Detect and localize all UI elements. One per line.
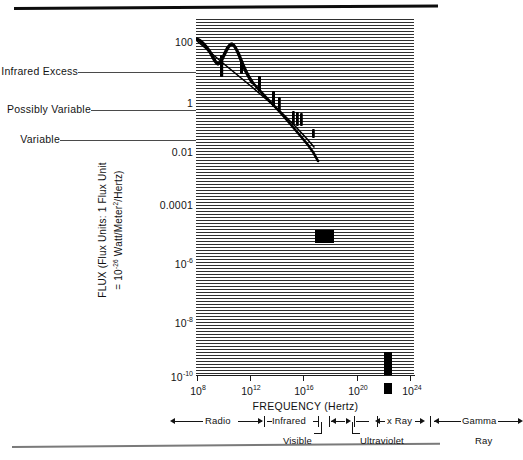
band-arrow-uv-left	[331, 418, 336, 424]
band-leader-ultraviolet-foot	[352, 433, 360, 434]
plot-hatch-background	[196, 19, 414, 375]
x-axis-tick-3	[357, 375, 358, 381]
band-rule-radio	[175, 421, 203, 422]
band-rule-gamma-right	[498, 421, 520, 422]
ytick-label-100: 100	[175, 36, 193, 48]
band-label-radio: Radio	[205, 415, 231, 426]
ytick-label-1e-10: 10-10	[171, 370, 193, 383]
x-axis-tick-2	[303, 375, 304, 381]
ytick-label-1e-6: 10-6	[175, 257, 193, 270]
band-label-infrared: Infrared	[272, 415, 306, 426]
x-axis-tick-0	[197, 375, 198, 381]
spectrum-band-ruler: Radio Infrared x Ray Gamma Visible Ultra…	[168, 412, 430, 452]
band-rule-xray-left	[380, 421, 385, 422]
x-axis-line	[196, 375, 415, 376]
band-arrow-uv-right	[346, 418, 351, 424]
band-arrow-xray-right	[420, 418, 425, 424]
guide-line-possibly-variable	[91, 110, 196, 111]
band-stop-uv-left	[354, 416, 355, 427]
y-axis-title: FLUX (Flux Units: 1 Flux Unit = 10-26 Wa…	[96, 130, 125, 330]
band-stop-radio-infrared	[264, 416, 265, 427]
x-axis-tick-4	[410, 375, 411, 381]
annotation-possibly-variable: Possibly Variable	[0, 103, 93, 115]
plot-series-svg	[196, 19, 414, 375]
band-rule-uv-right	[356, 421, 369, 422]
band-arrow-gamma-left	[434, 418, 439, 424]
band-leader-visible-foot	[314, 433, 322, 434]
series-main-spectrum-descent	[252, 82, 318, 161]
y-axis-title-line2: = 10-26 Watt/Meter2/Hertz)	[109, 130, 125, 330]
x-axis-tick-1	[250, 375, 251, 381]
plot-area	[196, 19, 414, 375]
ytick-label-1: 1	[187, 97, 193, 109]
band-arrow-gamma-right	[518, 418, 523, 424]
series-infrared-excess-curve	[197, 39, 252, 82]
band-label-gamma-ray: Ray	[475, 435, 492, 446]
ytick-label-0-01: 0.01	[172, 146, 193, 158]
datapoint-xray-box	[315, 230, 334, 243]
series-error-bars	[220, 55, 315, 138]
datapoint-gamma-upper-limit	[384, 383, 392, 394]
band-arrow-radio-left	[170, 418, 175, 424]
xtick-label-1e16: 1016	[294, 384, 313, 397]
band-stop-xray-gamma	[430, 416, 431, 427]
band-arrow-xray-left	[375, 418, 380, 424]
annotation-variable: Variable	[0, 133, 62, 145]
band-stop-visible-right	[329, 416, 330, 427]
guide-line-variable	[60, 140, 196, 141]
xtick-label-1e12: 1012	[241, 384, 260, 397]
xtick-label-1e20: 1020	[348, 384, 367, 397]
band-label-ultraviolet: Ultraviolet	[360, 435, 404, 446]
xtick-label-1e24: 1024	[402, 384, 421, 397]
guide-line-infrared-excess	[78, 72, 196, 73]
x-axis-title: FREQUENCY (Hertz)	[196, 400, 415, 412]
band-label-visible: Visible	[283, 435, 312, 446]
xtick-label-1e8: 108	[190, 384, 206, 397]
datapoint-gamma-box	[384, 352, 392, 375]
ytick-label-1e-8: 10-8	[175, 316, 193, 329]
annotation-infrared-excess: Infrared Excess	[0, 65, 80, 77]
top-rule	[14, 4, 438, 10]
band-stop-infrared-visible	[318, 416, 319, 427]
band-arrow-radio-right	[258, 418, 263, 424]
band-label-xray: x Ray	[387, 415, 412, 426]
ytick-label-0-0001: 0.0001	[160, 199, 193, 211]
y-axis-title-line1: FLUX (Flux Units: 1 Flux Unit	[96, 130, 109, 330]
band-label-gamma: Gamma	[462, 415, 497, 426]
